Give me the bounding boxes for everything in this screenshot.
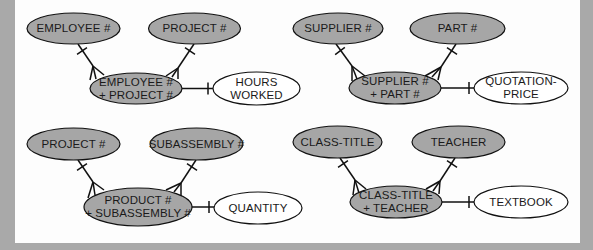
one-tick-mark bbox=[447, 48, 457, 55]
crows-foot-prong bbox=[88, 182, 93, 198]
attribute: TEXTBOOK bbox=[474, 186, 568, 218]
right-entity-key: PART # bbox=[410, 13, 505, 44]
right-entity-key: SUBASSEMBLY # bbox=[149, 128, 245, 160]
right-entity-key-label: PROJECT # bbox=[163, 22, 227, 34]
attribute: QUANTITY bbox=[214, 192, 302, 224]
concatenated-key: PRODUCT #+ SUBASSEMBLY # bbox=[84, 188, 192, 226]
attribute-label: WORKED bbox=[230, 89, 282, 101]
concatenated-key-label: SUPPLIER # bbox=[361, 75, 429, 87]
concatenated-key: SUPPLIER #+ PART # bbox=[349, 72, 441, 104]
left-many-connector bbox=[77, 160, 104, 198]
right-entity-key: PROJECT # bbox=[149, 13, 241, 44]
attribute: QUOTATION-PRICE bbox=[474, 72, 568, 104]
crows-foot-prong bbox=[353, 180, 355, 195]
relationship-line bbox=[78, 160, 93, 182]
right-entity-key-label: PART # bbox=[438, 22, 478, 34]
attribute-label: TEXTBOOK bbox=[489, 196, 553, 208]
right-many-connector bbox=[166, 160, 197, 196]
right-entity-key: TEACHER bbox=[412, 126, 505, 158]
diagram-class-teacher: CLASS-TITLETEACHERCLASS-TITLE+ TEACHERTE… bbox=[293, 126, 568, 218]
right-many-connector bbox=[166, 44, 195, 79]
attribute-label: QUANTITY bbox=[229, 202, 288, 214]
attribute-label: HOURS bbox=[235, 76, 277, 88]
left-entity-key: SUPPLIER # bbox=[293, 13, 383, 44]
right-entity-key-label: TEACHER bbox=[431, 136, 487, 148]
left-entity-key-label: SUPPLIER # bbox=[304, 22, 372, 34]
left-entity-key-label: PROJECT # bbox=[42, 138, 106, 150]
concatenated-key-label: + SUBASSEMBLY # bbox=[85, 207, 191, 219]
left-entity-key: CLASS-TITLE bbox=[293, 126, 382, 158]
attribute: HOURSWORKED bbox=[213, 72, 300, 105]
left-entity-key-label: CLASS-TITLE bbox=[301, 136, 375, 148]
relationship-line bbox=[78, 44, 93, 66]
concatenated-key: CLASS-TITLE+ TEACHER bbox=[350, 186, 442, 218]
diagram-employee-project: EMPLOYEE #PROJECT #EMPLOYEE #+ PROJECT #… bbox=[27, 13, 300, 105]
crows-foot-prong bbox=[439, 181, 440, 194]
left-entity-key: EMPLOYEE # bbox=[27, 13, 120, 44]
concatenated-key: EMPLOYEE #+ PROJECT # bbox=[90, 73, 182, 104]
er-diagram-canvas: EMPLOYEE #PROJECT #EMPLOYEE #+ PROJECT #… bbox=[0, 0, 593, 250]
concatenated-key-label: CLASS-TITLE bbox=[359, 189, 433, 201]
concatenated-key-label: + PROJECT # bbox=[99, 89, 174, 101]
relationship-line bbox=[441, 44, 456, 67]
relationship-line bbox=[181, 160, 196, 183]
left-entity-key-label: EMPLOYEE # bbox=[37, 22, 111, 34]
crows-foot-prong bbox=[90, 66, 93, 80]
concatenated-key-label: + PART # bbox=[370, 88, 420, 100]
concatenated-key-label: EMPLOYEE # bbox=[99, 76, 173, 88]
left-entity-key: PROJECT # bbox=[27, 128, 120, 160]
concatenated-key-label: PRODUCT # bbox=[104, 194, 172, 206]
one-tick-mark bbox=[187, 164, 197, 171]
diagram-supplier-part: SUPPLIER #PART #SUPPLIER #+ PART #QUOTAT… bbox=[293, 13, 568, 104]
attribute-label: PRICE bbox=[503, 88, 539, 100]
right-many-connector bbox=[425, 44, 457, 80]
concatenated-key-label: + TEACHER bbox=[363, 202, 429, 214]
attribute-label: QUOTATION- bbox=[485, 75, 557, 87]
diagram-project-subassembly: PROJECT #SUBASSEMBLY #PRODUCT #+ SUBASSE… bbox=[27, 128, 302, 226]
right-entity-key-label: SUBASSEMBLY # bbox=[149, 138, 245, 150]
